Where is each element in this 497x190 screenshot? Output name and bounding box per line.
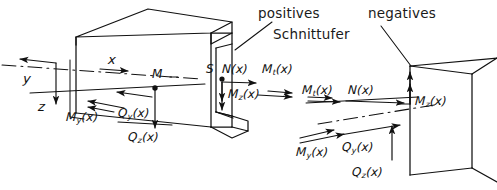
sym-Q: Q [118,106,128,120]
label-Qz-left-face: Qz(x) [128,131,160,145]
label-point-M: M [152,68,162,80]
label-Mt-right-face: Mt(x) [302,84,333,98]
label-N-right-face: N(x) [348,84,374,96]
label-Qy-left-face: Qy(x) [118,107,150,121]
arg-My: (x) [81,110,98,124]
axis-label-x: x [108,53,117,66]
label-Mz-left-face: Mz(x) [228,88,260,102]
leader-negative-face [381,26,411,66]
arrow-Qy-left-face [117,92,152,97]
arrow-Mt-left-face [258,91,292,97]
label-Mt-left-face: Mt(x) [262,63,293,77]
label-Qz-right-face: Qz(x) [352,166,384,180]
annotation-schnittufer: Schnittufer [273,28,350,42]
sym-Q: Q [128,130,138,144]
arg-Mt: (x) [316,83,333,97]
arg-N: (x) [357,83,374,97]
annotation-positives: positives [258,7,320,21]
leader-positive-face [235,22,272,50]
arrow-My-right-face [300,130,344,143]
label-N-left-face: N(x) [222,63,248,75]
sym-Q: Q [342,140,352,154]
arg-Mz: (x) [243,87,260,101]
label-My-left-face: My(x) [66,111,99,125]
axis-label-y: y [23,72,32,85]
arrow-Qy-right-face [340,125,400,135]
shear-center-point-S [219,76,224,81]
label-Mz-right-face: Mz(x) [415,95,447,109]
arg-Mz: (x) [430,94,447,108]
annotation-negatives: negatives [368,7,436,21]
arg-Qy: (x) [132,106,149,120]
label-point-S: S [206,63,214,75]
arg-N: (x) [231,62,248,76]
arg-My: (x) [311,145,328,159]
arg-Qy: (x) [356,140,373,154]
left-beam-top-flange [76,9,232,45]
left-x-arrow [100,69,128,71]
left-y-axis-arrow [20,59,56,63]
label-My-right-face: My(x) [296,146,329,160]
right-beam-body [410,58,497,182]
arrow-N-left-face [222,82,256,83]
label-Qy-right-face: Qy(x) [342,141,374,155]
figure-canvas: positives Schnittufer negatives y z x M … [0,0,497,190]
arrow-N-right-face [346,101,404,103]
arg-Qz: (x) [142,130,159,144]
axis-label-z: z [38,100,46,113]
arg-Mt: (x) [276,62,293,76]
sym-Q: Q [352,165,362,179]
arg-Qz: (x) [366,165,383,179]
